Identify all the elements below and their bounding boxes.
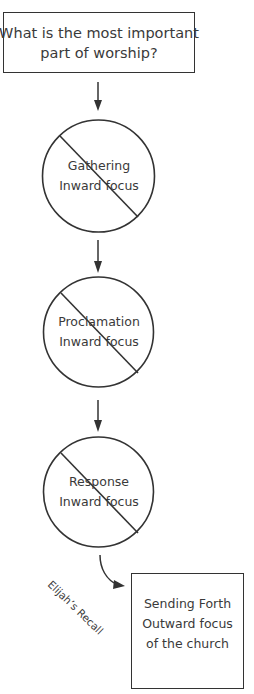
down-arrow-icon — [94, 82, 102, 111]
worship-flow-diagram: What is the most important part of worsh… — [0, 0, 254, 694]
curved-arrow-icon — [100, 555, 125, 589]
question-box: What is the most important part of worsh… — [3, 12, 195, 73]
step-focus: Inward focus — [44, 492, 154, 512]
step-focus: Inward focus — [44, 332, 154, 352]
result-line-1: Sending Forth — [144, 594, 231, 614]
response-label: Response Inward focus — [44, 472, 154, 512]
question-line-2: part of worship? — [40, 43, 157, 63]
result-line-3: of the church — [146, 634, 229, 654]
step-name: Response — [44, 472, 154, 492]
result-line-2: Outward focus — [142, 614, 233, 634]
proclamation-label: Proclamation Inward focus — [44, 312, 154, 352]
down-arrow-icon — [94, 240, 102, 273]
step-focus: Inward focus — [44, 176, 154, 196]
question-line-1: What is the most important — [0, 23, 199, 43]
step-name: Proclamation — [44, 312, 154, 332]
sending-forth-box: Sending Forth Outward focus of the churc… — [131, 573, 244, 689]
gathering-label: Gathering Inward focus — [44, 156, 154, 196]
step-name: Gathering — [44, 156, 154, 176]
down-arrow-icon — [94, 400, 102, 432]
